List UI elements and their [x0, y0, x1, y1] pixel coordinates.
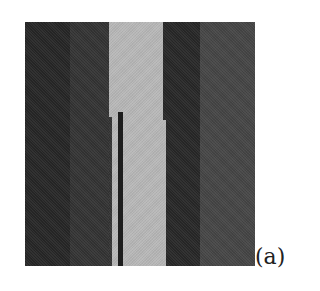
- grayscale-figure: [25, 22, 255, 266]
- region-far-right-medium: [200, 22, 255, 266]
- region-thin-bar: [118, 112, 123, 266]
- region-right-dark: [163, 22, 200, 266]
- region-far-left-dark: [25, 22, 70, 266]
- figure-label: (a): [255, 244, 285, 269]
- region-right-step: [163, 120, 166, 266]
- region-left-dark: [70, 22, 109, 266]
- region-left-step-cover: [109, 117, 112, 266]
